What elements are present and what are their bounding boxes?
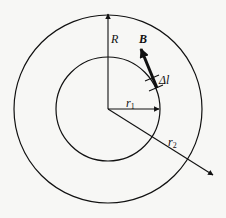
label-B: B <box>138 32 147 46</box>
radius-r2-arrow <box>108 109 213 175</box>
magnetic-field-B-arrow <box>141 49 157 88</box>
label-r2: r2 <box>168 135 177 150</box>
concentric-circles-diagram: R B Δl r1 r2 <box>0 0 226 218</box>
label-R: R <box>110 32 119 46</box>
label-r1: r1 <box>126 96 135 111</box>
label-delta-l: Δl <box>158 73 170 87</box>
